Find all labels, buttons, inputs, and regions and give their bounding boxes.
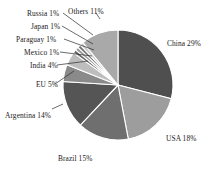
pie-label-japan: Japan 1% [31,23,60,30]
pie-label-paraguay: Paraguay 1% [16,36,56,43]
pie-label-mexico: Mexico 1% [24,49,59,56]
pie-label-brazil: Brazil 15% [58,155,92,162]
pie-label-china: China 29% [167,40,201,47]
pie-slices [63,30,173,140]
russia-leader [63,13,93,35]
pie-label-usa: USA 18% [166,135,196,142]
pie-label-argentina: Argentina 14% [5,112,51,119]
pie-chart: Others 11%Russia 1%Japan 1%Paraguay 1%Me… [0,0,212,169]
pie-label-eu: EU 5% [36,81,58,88]
pie-label-india: India 4% [30,62,58,69]
argentina-leader [52,104,63,109]
pie-label-others: Others 11% [68,8,104,15]
japan-leader [62,26,93,44]
pie-label-russia: Russia 1% [27,10,59,17]
